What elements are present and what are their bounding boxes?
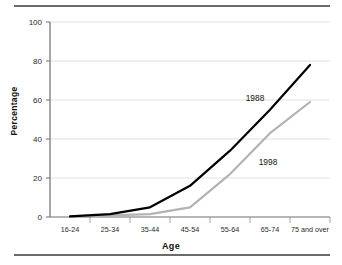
top-divider-rule	[14, 5, 330, 7]
y-axis-title: Percentage	[9, 71, 19, 151]
chart-figure: Percentage	[0, 0, 342, 265]
series-line-1988	[70, 65, 310, 217]
y-tick-label-40: 40	[33, 135, 42, 144]
line-chart-svg: 100 80 60 40 20 0 16-24 25-34 35-44 45-5…	[0, 10, 342, 250]
x-tick-label-16-24: 16-24	[61, 225, 79, 234]
x-tick-label-45-54: 45-54	[181, 225, 199, 234]
x-tick-marks	[90, 217, 330, 223]
x-tick-label-55-64: 55-64	[221, 225, 239, 234]
y-tick-label-20: 20	[33, 174, 42, 183]
series-annotation-1988: 1988	[246, 93, 265, 103]
x-tick-label-65-74: 65-74	[261, 225, 279, 234]
gridlines	[50, 22, 330, 178]
y-tick-label-60: 60	[33, 96, 42, 105]
y-tick-label-0: 0	[38, 213, 43, 222]
plot-area-wrapper: Percentage	[0, 10, 342, 250]
x-axis-title: Age	[0, 241, 342, 251]
x-tick-label-25-34: 25-34	[101, 225, 119, 234]
x-tick-label-75-and-over: 75 and over	[291, 225, 330, 234]
series-annotation-1998: 1998	[259, 157, 278, 167]
bottom-divider-rule	[14, 254, 330, 256]
x-tick-label-35-44: 35-44	[141, 225, 159, 234]
y-tick-label-80: 80	[33, 57, 42, 66]
y-tick-label-100: 100	[29, 18, 43, 27]
